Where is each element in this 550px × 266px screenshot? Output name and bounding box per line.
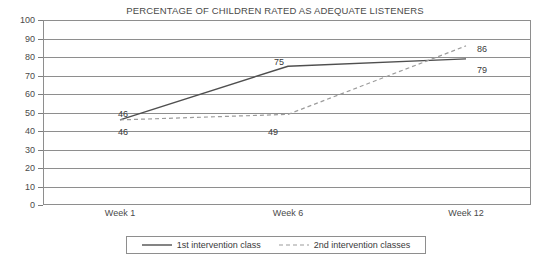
y-tick-mark-20 bbox=[38, 168, 43, 169]
x-tick-label-2: Week 6 bbox=[273, 207, 303, 219]
data-value-label: 46 bbox=[118, 128, 128, 137]
series-1-line bbox=[120, 59, 466, 120]
x-axis-tick-labels: Week 1Week 6Week 12 bbox=[0, 207, 550, 223]
data-value-label: 49 bbox=[268, 128, 278, 137]
y-tick-mark-100 bbox=[38, 20, 43, 21]
legend-swatch-solid-icon bbox=[142, 242, 172, 248]
chart-legend: 1st intervention class 2nd intervention … bbox=[126, 236, 426, 254]
legend-item-series-2: 2nd intervention classes bbox=[279, 240, 411, 250]
y-tick-mark-50 bbox=[38, 113, 43, 114]
series-2-line bbox=[120, 46, 466, 120]
y-tick-mark-30 bbox=[38, 150, 43, 151]
legend-swatch-dashed-icon bbox=[279, 242, 309, 248]
y-tick-mark-10 bbox=[38, 187, 43, 188]
data-value-label: 79 bbox=[477, 66, 487, 75]
x-tick-label-3: Week 12 bbox=[448, 207, 483, 219]
y-tick-mark-60 bbox=[38, 94, 43, 95]
legend-label-series-2: 2nd intervention classes bbox=[314, 240, 411, 250]
legend-label-series-1: 1st intervention class bbox=[177, 240, 261, 250]
y-tick-mark-70 bbox=[38, 76, 43, 77]
y-tick-mark-80 bbox=[38, 57, 43, 58]
y-tick-mark-40 bbox=[38, 131, 43, 132]
legend-item-series-1: 1st intervention class bbox=[142, 240, 261, 250]
data-value-label: 86 bbox=[477, 45, 487, 54]
line-chart: PERCENTAGE OF CHILDREN RATED AS ADEQUATE… bbox=[0, 0, 550, 266]
x-tick-label-1: Week 1 bbox=[105, 207, 135, 219]
data-value-label: 75 bbox=[274, 58, 284, 67]
data-value-label: 46 bbox=[118, 110, 128, 119]
y-tick-mark-90 bbox=[38, 39, 43, 40]
y-tick-mark-0 bbox=[38, 205, 43, 206]
